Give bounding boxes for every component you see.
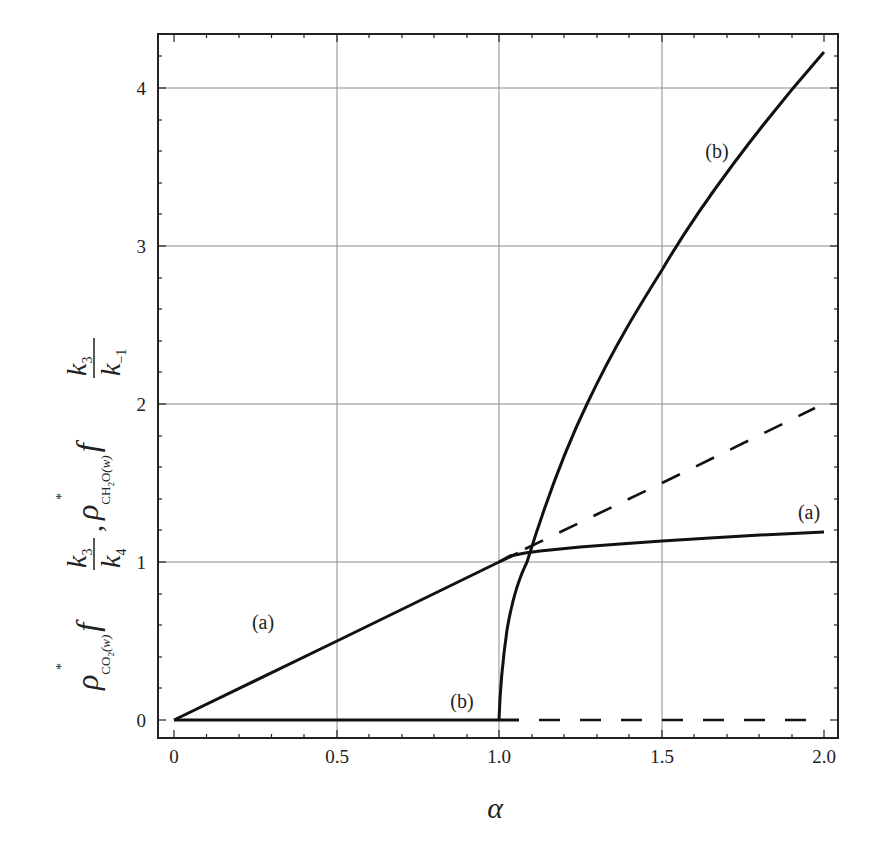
y-comma: , xyxy=(77,525,108,532)
y-tick-labels: 0 1 2 3 4 xyxy=(137,78,147,731)
y-tick-label: 1 xyxy=(137,552,147,573)
y-k4-den: k4 xyxy=(95,549,129,568)
y-f-1: f xyxy=(69,619,105,632)
svg-text:ρCH2O(w)f: ρCH2O(w)f xyxy=(69,439,116,521)
curve-label-a-left: (a) xyxy=(252,611,274,634)
x-tick-labels: 0 0.5 1.0 1.5 2.0 xyxy=(169,746,836,767)
x-tick-label: 1.0 xyxy=(487,746,511,767)
y-tick-label: 0 xyxy=(137,710,147,731)
y-k3-num-2: k3 xyxy=(61,357,95,376)
chart-figure: 0 0.5 1.0 1.5 2.0 0 1 2 3 4 (a) (a) (b) … xyxy=(0,0,877,860)
curve-label-a-right: (a) xyxy=(798,501,820,524)
y-star-2: * xyxy=(54,493,69,500)
x-tick-label: 0.5 xyxy=(325,746,349,767)
y-sub-ch2o: CH xyxy=(98,487,113,505)
rho-symbol: ρ xyxy=(69,675,105,691)
x-axis-label: α xyxy=(487,791,504,824)
y-f-2: f xyxy=(69,439,105,452)
curve-a-linear-dashed xyxy=(525,408,815,549)
y-sub-co2-w: (w) xyxy=(98,635,113,652)
y-sub-ch2o-w: (w) xyxy=(98,455,113,472)
y-k3-num: k3 xyxy=(61,549,95,568)
curve-label-b-upper: (b) xyxy=(705,140,728,163)
x-tick-label: 2.0 xyxy=(812,746,836,767)
y-sub-ch2o-o: O xyxy=(98,473,113,482)
rho-symbol-2: ρ xyxy=(69,505,105,521)
y-star-1: * xyxy=(54,663,69,670)
curve-label-b-lower: (b) xyxy=(450,690,473,713)
y-sub-co2: CO xyxy=(98,657,113,675)
y-tick-label: 3 xyxy=(137,236,147,257)
y-axis-label: ρCO2(w)f * k3 k4 , ρCH2O(w)f * k3 k−1 xyxy=(54,338,129,691)
y-tick-label: 2 xyxy=(137,394,147,415)
svg-text:ρCO2(w)f: ρCO2(w)f xyxy=(69,619,116,691)
x-tick-label: 1.5 xyxy=(650,746,674,767)
y-tick-label: 4 xyxy=(137,78,147,99)
x-tick-label: 0 xyxy=(169,746,179,767)
y-km1-den: k−1 xyxy=(95,349,129,376)
